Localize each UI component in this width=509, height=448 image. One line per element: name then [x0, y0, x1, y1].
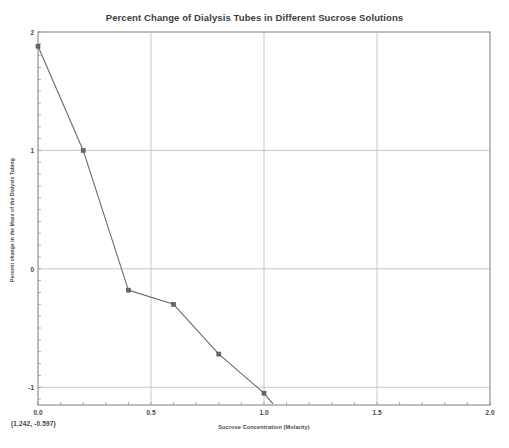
x-axis-title: Sucrose Concentration (Molarity)	[38, 424, 490, 430]
y-tick-label-2: 0	[30, 265, 34, 272]
x-tick-label-2: 1.0	[260, 409, 269, 416]
x-tick-label-4: 2.0	[486, 409, 495, 416]
y-tick-label-1: 1	[30, 147, 34, 154]
y-tick-label-3: -1	[28, 384, 34, 391]
cursor-coordinates-annotation: (1.242, -0.597)	[11, 420, 56, 427]
y-tick-label-0: 2	[30, 29, 34, 36]
x-tick-label-3: 1.5	[373, 409, 382, 416]
x-tick-label-1: 0.5	[147, 409, 156, 416]
chart-figure: Percent Change of Dialysis Tubes in Diff…	[0, 0, 509, 448]
x-tick-label-0: 0.0	[34, 409, 43, 416]
plot-area	[0, 0, 509, 448]
y-axis-title: Percent change in the Mass of the Dialys…	[9, 150, 15, 290]
data-line-series	[38, 46, 273, 404]
